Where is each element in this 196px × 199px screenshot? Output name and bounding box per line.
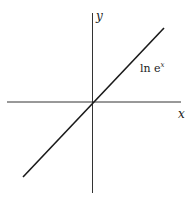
y-axis-label: y <box>96 10 103 22</box>
curve-label-exponent: x <box>161 61 165 69</box>
curve-label: ln ex <box>140 62 165 74</box>
graph-figure: y x ln ex <box>0 0 196 199</box>
graph-canvas <box>0 0 196 199</box>
x-axis-label: x <box>178 108 185 120</box>
curve-label-base: ln e <box>140 62 161 75</box>
